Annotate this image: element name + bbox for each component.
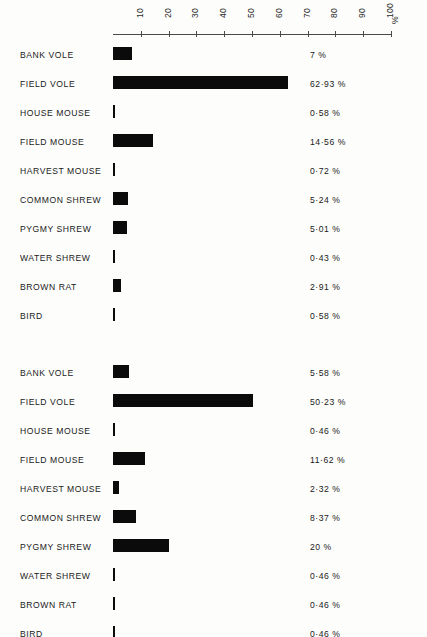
value-bar: [113, 221, 127, 234]
value-label: 0·46 %: [310, 571, 341, 581]
species-label: BANK VOLE: [20, 50, 74, 60]
axis-tick-label: 90: [357, 8, 367, 18]
percent-axis: 102030405060708090100 %: [0, 0, 427, 40]
value-label: 50·23 %: [310, 397, 346, 407]
chart-row: BROWN RAT2·91 %: [0, 274, 427, 303]
species-label: BROWN RAT: [20, 600, 77, 610]
value-label: 0·46 %: [310, 426, 341, 436]
chart-row: WATER SHREW0·46 %: [0, 563, 427, 592]
species-label: HARVEST MOUSE: [20, 166, 101, 176]
value-label: 0·46 %: [310, 600, 341, 610]
value-label: 2·91 %: [310, 282, 341, 292]
value-label: 5·24 %: [310, 195, 341, 205]
axis-unit-label: %: [390, 16, 400, 24]
axis-tick-label: 20: [163, 8, 173, 18]
value-bar: [113, 76, 288, 89]
axis-tick: [169, 31, 170, 37]
value-bar: [113, 423, 115, 436]
value-bar: [113, 192, 128, 205]
chart-row: PYGMY SHREW20 %: [0, 534, 427, 563]
chart-row: BANK VOLE5·58 %: [0, 360, 427, 389]
species-label: BIRD: [20, 629, 43, 637]
chart-row: FIELD MOUSE11·62 %: [0, 447, 427, 476]
axis-tick-label: 50: [246, 8, 256, 18]
axis-tick-label: 60: [274, 8, 284, 18]
value-label: 5·58 %: [310, 368, 341, 378]
chart-row: BIRD0·46 %: [0, 621, 427, 637]
chart-row: BIRD0·58 %: [0, 303, 427, 332]
axis-tick-label: 80: [329, 8, 339, 18]
axis-tick-label: 30: [190, 8, 200, 18]
value-label: 14·56 %: [310, 137, 346, 147]
species-label: WATER SHREW: [20, 571, 91, 581]
species-label: HARVEST MOUSE: [20, 484, 101, 494]
species-label: COMMON SHREW: [20, 195, 101, 205]
chart-row: WATER SHREW0·43 %: [0, 245, 427, 274]
value-label: 0·46 %: [310, 629, 341, 637]
value-label: 5·01 %: [310, 224, 341, 234]
chart-row: FIELD MOUSE14·56 %: [0, 129, 427, 158]
axis-tick: [308, 31, 309, 37]
axis-tick-label: 70: [302, 8, 312, 18]
species-label: HOUSE MOUSE: [20, 426, 91, 436]
axis-tick: [335, 31, 336, 37]
figure-page: 102030405060708090100 % BANK VOLE7 %FIEL…: [0, 0, 427, 637]
value-label: 0·58 %: [310, 108, 341, 118]
species-label: HOUSE MOUSE: [20, 108, 91, 118]
axis-tick-label: 40: [218, 8, 228, 18]
species-label: BANK VOLE: [20, 368, 74, 378]
value-bar: [113, 279, 121, 292]
chart-row: HARVEST MOUSE0·72 %: [0, 158, 427, 187]
chart-row: FIELD VOLE50·23 %: [0, 389, 427, 418]
chart-row: BANK VOLE7 %: [0, 42, 427, 71]
value-bar: [113, 510, 136, 523]
axis-tick: [196, 31, 197, 37]
species-label: FIELD VOLE: [20, 397, 75, 407]
axis-tick: [141, 31, 142, 37]
value-label: 11·62 %: [310, 455, 345, 465]
value-bar: [113, 626, 115, 637]
value-label: 20 %: [310, 542, 332, 552]
axis-tick: [224, 31, 225, 37]
species-label: PYGMY SHREW: [20, 542, 91, 552]
value-bar: [113, 394, 253, 407]
species-label: WATER SHREW: [20, 253, 91, 263]
species-label: FIELD VOLE: [20, 79, 75, 89]
chart-row: BROWN RAT0·46 %: [0, 592, 427, 621]
value-label: 0·58 %: [310, 311, 341, 321]
species-label: BROWN RAT: [20, 282, 77, 292]
value-bar: [113, 452, 145, 465]
axis-tick-label: 10: [135, 8, 145, 18]
value-bar: [113, 481, 119, 494]
chart-row: HOUSE MOUSE0·58 %: [0, 100, 427, 129]
chart-row: COMMON SHREW5·24 %: [0, 187, 427, 216]
value-label: 62·93 %: [310, 79, 346, 89]
chart-row: PYGMY SHREW5·01 %: [0, 216, 427, 245]
species-label: PYGMY SHREW: [20, 224, 91, 234]
value-bar: [113, 134, 153, 147]
value-bar: [113, 163, 115, 176]
chart-row: HARVEST MOUSE2·32 %: [0, 476, 427, 505]
value-bar: [113, 308, 115, 321]
value-bar: [113, 47, 132, 60]
chart-upper: BANK VOLE7 %FIELD VOLE62·93 %HOUSE MOUSE…: [0, 42, 427, 332]
value-bar: [113, 597, 115, 610]
axis-tick: [363, 31, 364, 37]
species-label: BIRD: [20, 311, 43, 321]
value-bar: [113, 105, 115, 118]
chart-row: COMMON SHREW8·37 %: [0, 505, 427, 534]
value-label: 7 %: [310, 50, 326, 60]
value-label: 2·32 %: [310, 484, 341, 494]
species-label: FIELD MOUSE: [20, 455, 84, 465]
value-label: 0·72 %: [310, 166, 341, 176]
value-bar: [113, 365, 129, 378]
chart-row: FIELD VOLE62·93 %: [0, 71, 427, 100]
value-bar: [113, 250, 115, 263]
species-label: FIELD MOUSE: [20, 137, 84, 147]
value-bar: [113, 568, 115, 581]
chart-row: HOUSE MOUSE0·46 %: [0, 418, 427, 447]
axis-tick: [280, 31, 281, 37]
axis-tick: [252, 31, 253, 37]
value-bar: [113, 539, 169, 552]
species-label: COMMON SHREW: [20, 513, 101, 523]
